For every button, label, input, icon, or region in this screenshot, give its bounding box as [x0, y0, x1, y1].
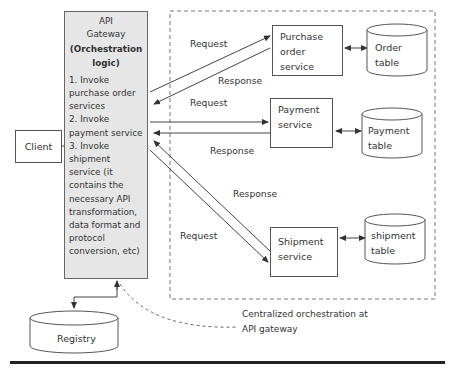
payment-service-line1: Payment: [278, 102, 325, 117]
ship-request-label: Request: [180, 230, 217, 241]
payment-service-box: Payment service: [270, 98, 333, 148]
order-table-label: Order table: [375, 40, 402, 70]
payment-service-line2: service: [278, 117, 325, 132]
payment-table-line2: table: [368, 138, 410, 153]
registry-cylinder: [30, 311, 118, 353]
registry-label: Registry: [57, 333, 96, 344]
gateway-title-line2: Gateway: [69, 28, 143, 41]
order-table-line1: Order: [375, 40, 402, 55]
gateway-subtitle-line2: logic): [69, 57, 143, 70]
payment-table-label: Payment table: [368, 123, 410, 153]
note-line2: API gateway: [242, 322, 368, 337]
po-service-line3: service: [280, 59, 335, 74]
gateway-step-1: 1. Invoke purchase order services: [69, 74, 143, 114]
payment-table-line1: Payment: [368, 123, 410, 138]
gateway-step-2: 2. Invoke payment service: [69, 113, 143, 139]
ship-response-label: Response: [233, 188, 277, 199]
po-service-line2: order: [280, 44, 335, 59]
gateway-registry-link: [74, 282, 117, 308]
shipment-service-line1: Shipment: [278, 234, 330, 249]
gateway-subtitle-line1: (Orchestration: [69, 43, 143, 56]
client-box: Client: [15, 130, 62, 163]
client-label: Client: [25, 141, 53, 152]
ship-request-arrow: [150, 150, 268, 262]
shipment-table-label: shipment table: [371, 228, 416, 258]
shipment-service-box: Shipment service: [270, 227, 338, 277]
orchestration-callout-curve: [120, 284, 238, 327]
pay-response-label: Response: [210, 145, 254, 156]
pay-request-label: Request: [190, 97, 227, 108]
po-service-line1: Purchase: [280, 29, 335, 44]
gateway-title-line1: API: [69, 15, 143, 28]
gateway-step-3: 3. Invoke shipment service (it contains …: [69, 140, 143, 259]
api-gateway-box: API Gateway (Orchestration logic) 1. Inv…: [64, 11, 148, 279]
shipment-service-line2: service: [278, 249, 330, 264]
shipment-table-line2: table: [371, 243, 416, 258]
purchase-order-service-box: Purchase order service: [272, 25, 343, 76]
bottom-rule: [10, 361, 223, 364]
order-table-line2: table: [375, 55, 402, 70]
note-line1: Centralized orchestration at: [242, 307, 368, 322]
orchestration-note: Centralized orchestration at API gateway: [242, 307, 368, 337]
po-response-label: Response: [218, 75, 262, 86]
bottom-rule-right: [223, 361, 445, 364]
shipment-table-line1: shipment: [371, 228, 416, 243]
po-request-label: Request: [190, 38, 227, 49]
